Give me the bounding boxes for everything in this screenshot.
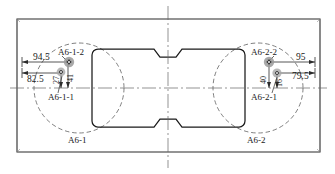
point-label-right-upper: A6-2-2 [251,47,277,57]
arrowhead-right-lower [309,71,315,75]
dim-label-left-upper: 94.5 [33,52,50,62]
arrowhead-left-upper [22,60,28,64]
technical-drawing-canvas: 94.5 82.5 95 79.5 27 41 40 16 A6-1-2 A6-… [0,0,335,174]
region-label-left: A6-1 [68,135,87,145]
weld-point-markers [57,57,282,78]
dim-label-right-vert-outer: 16 [275,79,284,87]
dim-label-left-vert-inner: 27 [52,76,61,84]
dim-label-left-vert-outer: 41 [66,74,75,82]
point-label-left-upper: A6-1-2 [58,47,84,57]
dim-label-right-upper: 95 [296,52,306,62]
point-label-left-lower: A6-1-1 [48,92,74,102]
dim-label-right-lower: 79.5 [292,71,309,81]
dim-label-right-vert-inner: 40 [259,76,268,84]
point-label-right-lower: A6-2-1 [251,92,277,102]
region-label-right: A6-2 [247,135,266,145]
leader-lines [58,56,277,93]
dim-label-left-lower: 82.5 [27,74,44,84]
arrowhead-right-upper [309,60,315,64]
drawing-sheet: 94.5 82.5 95 79.5 27 41 40 16 A6-1-2 A6-… [0,0,335,174]
